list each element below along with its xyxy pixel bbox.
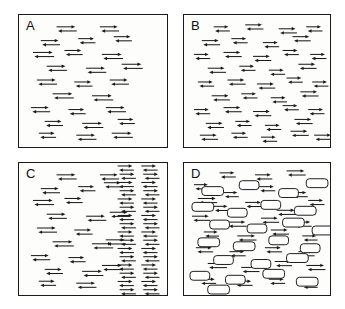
arrow-pair [118, 164, 134, 171]
arrow-pair [41, 187, 60, 194]
arrow [265, 124, 280, 127]
brick [225, 275, 245, 284]
arrow [143, 185, 158, 188]
arrow [141, 197, 156, 200]
arrow [205, 234, 219, 237]
brick [294, 206, 316, 215]
arrow [101, 29, 119, 32]
arrow [143, 201, 158, 204]
arrow [257, 82, 274, 85]
arrow-pair [255, 173, 272, 180]
arrow [143, 288, 158, 291]
brick [312, 226, 330, 235]
arrow [266, 250, 282, 253]
arrow-pair [120, 222, 136, 229]
arrow-pair [194, 108, 210, 115]
arrow [107, 110, 126, 113]
arrow [70, 260, 86, 263]
arrow [233, 136, 248, 139]
arrow [193, 219, 210, 222]
arrow [76, 282, 95, 285]
arrow [120, 272, 135, 275]
arrow-pair [290, 130, 308, 137]
arrow-pair [114, 35, 132, 42]
brick [269, 236, 289, 245]
arrow [235, 120, 250, 123]
arrow [237, 234, 255, 237]
arrow-pair [294, 118, 312, 125]
panel-c: C [18, 162, 168, 296]
arrow [120, 206, 135, 209]
arrow [310, 203, 325, 206]
arrow [80, 41, 96, 44]
arrow [255, 173, 271, 176]
arrow [37, 78, 56, 81]
arrow-pair [37, 78, 57, 85]
arrow [200, 134, 217, 137]
arrow [84, 126, 104, 129]
arrow [239, 238, 257, 241]
brick [279, 189, 299, 198]
arrow-pair [283, 104, 299, 111]
arrow [106, 106, 125, 109]
arrow [143, 251, 158, 254]
arrow-pair [141, 230, 157, 237]
arrow-pair [143, 272, 159, 279]
arrow [76, 232, 93, 235]
arrow [143, 239, 158, 242]
arrow [88, 219, 107, 222]
arrow [33, 51, 53, 54]
arrow [253, 55, 270, 58]
arrow [80, 189, 96, 192]
arrow [32, 110, 50, 113]
panel-b-graphics [184, 15, 330, 147]
arrow-pair [31, 106, 50, 113]
arrow [32, 258, 50, 261]
arrow [141, 214, 156, 217]
arrow [54, 244, 74, 247]
arrow [119, 201, 134, 204]
arrow-pair [143, 239, 159, 246]
brick [296, 277, 318, 286]
arrow [34, 203, 54, 206]
arrow [121, 292, 136, 295]
arrow [207, 126, 224, 129]
arrow [76, 134, 95, 137]
arrow-pair [237, 234, 256, 241]
arrow [237, 124, 252, 127]
arrow-pair [102, 53, 123, 60]
arrow-pair [141, 263, 157, 270]
arrow-pair [45, 120, 63, 127]
arrow-pair [122, 63, 143, 70]
arrow [58, 177, 77, 180]
arrow-pair [231, 37, 247, 44]
arrow-pair [78, 185, 95, 192]
arrow [308, 268, 326, 271]
arrow [241, 69, 256, 72]
arrow-pair [287, 76, 303, 83]
arrow [229, 225, 247, 228]
arrow [195, 112, 210, 115]
arrow [294, 39, 311, 42]
arrow [53, 92, 73, 95]
arrow [296, 122, 313, 125]
arrow [82, 122, 102, 125]
arrow [143, 189, 158, 192]
arrow [57, 173, 76, 176]
panel-c-label: C [26, 167, 36, 180]
arrow [312, 80, 327, 83]
arrow [141, 280, 156, 283]
arrow [224, 51, 241, 54]
arrow [310, 112, 325, 115]
arrow [64, 197, 81, 200]
arrow [143, 255, 158, 258]
arrow-pair [310, 53, 326, 60]
arrow [145, 243, 160, 246]
arrow [206, 122, 223, 125]
brick [251, 260, 271, 269]
brick [190, 271, 210, 280]
arrow [34, 55, 54, 58]
arrow-pair [298, 63, 316, 70]
arrow [121, 243, 136, 246]
arrow [141, 181, 156, 184]
